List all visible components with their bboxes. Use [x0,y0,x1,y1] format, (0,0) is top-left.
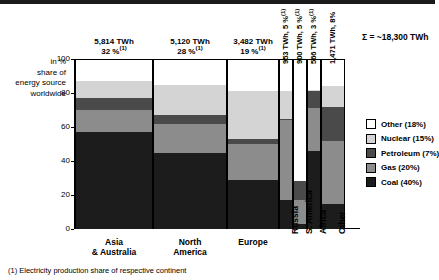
category-label-rotated: Africa [318,210,328,234]
bar-segment-gas [321,141,345,204]
bar-segment-nuclear [227,91,279,139]
legend-label: Gas (20%) [381,163,420,172]
bar-russia[interactable] [279,59,293,229]
chart-plot-area: 100806040200 [74,59,360,229]
legend-item-gas[interactable]: Gas (20%) [366,161,439,176]
y-axis-tick-label: 40 [61,157,70,165]
legend-label: Nuclear (15%) [381,134,434,143]
legend-label: Other (18%) [381,120,426,129]
y-axis-tick-label: 80 [61,89,70,97]
bar-segment-nuclear [321,86,345,106]
bar-top-label-pct: 19 %(1) [227,47,279,57]
bar-segment-nuclear [153,85,227,116]
bar-top-label: 3,482 TWh19 %(1) [227,37,279,56]
bar-north-america[interactable] [153,59,227,229]
chart-legend: Other (18%)Nuclear (15%)Petroleum (7%)Ga… [366,117,439,190]
bar-segment-petroleum [75,98,153,110]
bar-segment-petroleum [321,107,345,141]
category-label-rotated: Other [337,211,347,234]
bar-segment-petroleum [227,139,279,144]
bar-top-label-rotated: 953 TWh, 5 %(1) [281,9,290,64]
category-label: Europe [227,237,279,247]
y-axis-tick-mark [71,59,74,60]
bar-segment-petroleum [279,119,293,121]
bar-top-label-rotated: 1,471 TWh, 8% [328,12,337,64]
y-axis-caption-line: energy source [2,78,66,89]
bar-segment-gas [307,108,321,151]
bar-segment-petroleum [153,115,227,124]
legend-swatch-nuclear [366,134,376,144]
bar-segment-gas [153,124,227,153]
bar-segment-gas [227,144,279,180]
y-axis-tick-label: 100 [57,55,70,63]
category-label-line: & Australia [75,247,153,257]
y-axis-tick-mark [71,161,74,162]
bar-top-label-rotated: 900 TWh, 5 %(1) [295,9,304,64]
bar-segment-petroleum [307,91,321,108]
bar-segment-other [293,59,307,181]
bar-segment-other [75,59,153,81]
bar-top-label-pct: 28 %(1) [153,47,227,57]
legend-swatch-other [366,119,376,129]
category-label: NorthAmerica [153,237,227,257]
bar-segment-coal [153,153,227,230]
bar-top-label: 5,120 TWh28 %(1) [153,37,227,56]
y-axis-tick-mark [71,127,74,128]
y-axis-tick-mark [71,93,74,94]
bar-segment-other [227,59,279,91]
y-axis-caption-line: worldwide [2,89,66,100]
category-label-line: Europe [227,237,279,247]
legend-item-coal[interactable]: Coal (40%) [366,175,439,190]
category-label-line: America [153,247,227,257]
legend-item-nuclear[interactable]: Nuclear (15%) [366,132,439,147]
bar-top-label-rotated: 566 TWh, 3 %(1) [309,9,318,64]
header-rule [0,0,435,4]
bar-top-label-twh: 5,814 TWh [75,37,153,47]
legend-item-petroleum[interactable]: Petroleum (7%) [366,146,439,161]
bar-top-label-pct: 32 %(1) [75,47,153,57]
legend-swatch-gas [366,163,376,173]
bar-segment-coal [75,132,153,229]
legend-item-other[interactable]: Other (18%) [366,117,439,132]
bar-europe[interactable] [227,59,279,229]
y-axis-tick-mark [71,229,74,230]
bar-other[interactable] [321,59,345,229]
category-label-rotated: Russia [290,206,300,234]
category-label-line: North [153,237,227,247]
footnote: (1) Electricity production share of resp… [8,266,186,275]
bar-top-label-twh: 5,120 TWh [153,37,227,47]
y-axis-tick-label: 0 [66,225,70,233]
bar-top-label-twh: 3,482 TWh [227,37,279,47]
category-label-line: Asia [75,237,153,247]
y-axis-tick-label: 20 [61,191,70,199]
bar-segment-nuclear [75,81,153,98]
total-sum-label: Σ = ~18,300 TWh [362,32,429,42]
y-axis-tick-mark [71,195,74,196]
bar-segment-gas [75,110,153,132]
bar-asia-australia[interactable] [75,59,153,229]
legend-swatch-coal [366,177,376,187]
bar-top-label: 5,814 TWh32 %(1) [75,37,153,56]
legend-label: Petroleum (7%) [381,149,439,158]
y-axis-caption-line: share of [2,68,66,79]
legend-swatch-petroleum [366,148,376,158]
bar-segment-coal [227,180,279,229]
legend-label: Coal (40%) [381,178,422,187]
bar-segment-nuclear [279,91,293,118]
bar-segment-gas [279,120,293,200]
category-label-rotated: S. America [304,190,314,234]
bar-segment-other [153,59,227,85]
bar-segment-nuclear [307,90,321,92]
category-label: Asia& Australia [75,237,153,257]
y-axis-tick-label: 60 [61,123,70,131]
y-axis-caption: in %share ofenergy sourceworldwide [2,57,66,99]
